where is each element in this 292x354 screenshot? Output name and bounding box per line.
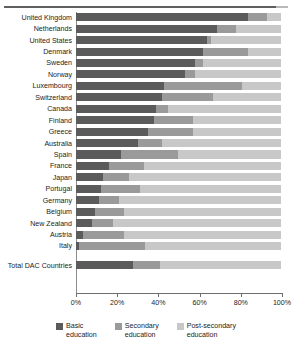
bar-segment-post-secondary-education — [248, 48, 281, 56]
country-label: Australia — [0, 140, 76, 148]
x-axis-tick-labels: 0%20%40%60%80%100% — [0, 299, 292, 311]
country-label: Netherlands — [0, 25, 76, 33]
chart-row: New Zealand — [0, 218, 292, 229]
bar-segment-post-secondary-education — [213, 93, 281, 101]
bar-segment-post-secondary-education — [145, 242, 281, 250]
country-label: Switzerland — [0, 94, 76, 102]
chart-row: Finland — [0, 115, 292, 126]
bar-segment-post-secondary-education — [168, 105, 281, 113]
stacked-bar — [76, 25, 281, 33]
bar-track — [76, 81, 292, 92]
stacked-bar — [76, 261, 281, 269]
bar-segment-basic-education — [76, 261, 133, 269]
x-axis-tick — [117, 293, 118, 297]
bar-segment-secondary-education — [164, 82, 242, 90]
bar-segment-post-secondary-education — [160, 261, 281, 269]
bar-segment-basic-education — [76, 93, 162, 101]
chart-row: Belgium — [0, 206, 292, 217]
top-divider-rule-tail — [276, 6, 288, 8]
bar-track — [76, 172, 292, 183]
stacked-bar — [76, 13, 281, 21]
chart-row: Luxembourg — [0, 81, 292, 92]
stacked-bar — [76, 128, 281, 136]
bar-segment-post-secondary-education — [119, 196, 281, 204]
bar-track — [76, 218, 292, 229]
chart-row: Canada — [0, 104, 292, 115]
bar-segment-secondary-education — [156, 105, 168, 113]
bar-segment-post-secondary-education — [124, 231, 281, 239]
bar-segment-post-secondary-education — [129, 173, 281, 181]
stacked-bar — [76, 242, 281, 250]
country-label: Belgium — [0, 208, 76, 216]
bar-segment-post-secondary-education — [124, 208, 281, 216]
chart-row: Sweden — [0, 58, 292, 69]
bar-segment-secondary-education — [121, 150, 178, 158]
bar-segment-basic-education — [76, 162, 109, 170]
bar-segment-basic-education — [76, 25, 217, 33]
country-label: Sweden — [0, 59, 76, 67]
legend-swatch-icon — [115, 323, 122, 330]
summary-label: Total DAC Countries — [0, 262, 76, 270]
bar-segment-post-secondary-education — [178, 150, 281, 158]
bar-segment-post-secondary-education — [162, 139, 281, 147]
chart-row: Denmark — [0, 46, 292, 57]
chart-row: Spain — [0, 149, 292, 160]
chart-row: Italy — [0, 241, 292, 252]
bar-segment-basic-education — [76, 185, 101, 193]
bar-segment-basic-education — [76, 105, 156, 113]
bar-segment-secondary-education — [79, 242, 145, 250]
bar-segment-basic-education — [76, 150, 121, 158]
bar-track — [76, 229, 292, 240]
bar-track — [76, 138, 292, 149]
bar-segment-basic-education — [76, 13, 248, 21]
bar-segment-secondary-education — [203, 48, 248, 56]
bar-segment-basic-education — [76, 173, 103, 181]
stacked-bar — [76, 231, 281, 239]
x-axis-line — [76, 293, 282, 294]
country-label: Japan — [0, 174, 76, 182]
country-label: Germany — [0, 197, 76, 205]
bar-segment-basic-education — [76, 139, 138, 147]
country-label: New Zealand — [0, 220, 76, 228]
stacked-bar — [76, 139, 281, 147]
chart-row: United Kingdom — [0, 12, 292, 23]
bar-segment-post-secondary-education — [195, 70, 281, 78]
row-spacer — [0, 252, 292, 260]
stacked-bar — [76, 208, 281, 216]
bar-segment-secondary-education — [103, 173, 130, 181]
bar-segment-post-secondary-education — [242, 82, 281, 90]
bar-segment-basic-education — [76, 128, 148, 136]
bar-segment-secondary-education — [101, 185, 140, 193]
stacked-bar — [76, 162, 281, 170]
x-axis-tick-label: 60% — [192, 299, 206, 307]
bar-segment-post-secondary-education — [236, 25, 281, 33]
chart-row: Netherlands — [0, 23, 292, 34]
country-label: Italy — [0, 242, 76, 250]
bar-track — [76, 115, 292, 126]
bar-segment-post-secondary-education — [193, 116, 281, 124]
country-label: Portugal — [0, 185, 76, 193]
bar-segment-post-secondary-education — [267, 13, 281, 21]
chart-row: United States — [0, 35, 292, 46]
country-label: Greece — [0, 128, 76, 136]
stacked-bar — [76, 173, 281, 181]
bar-track — [76, 23, 292, 34]
stacked-bar — [76, 82, 281, 90]
x-axis-tick-label: 40% — [151, 299, 165, 307]
stacked-bar — [76, 48, 281, 56]
x-axis-tick — [241, 293, 242, 297]
stacked-bar — [76, 219, 281, 227]
country-label: Austria — [0, 231, 76, 239]
bar-segment-secondary-education — [95, 208, 124, 216]
chart-row: Total DAC Countries — [0, 260, 292, 271]
bar-segment-secondary-education — [154, 116, 193, 124]
country-label: Canada — [0, 105, 76, 113]
bar-segment-secondary-education — [248, 13, 266, 21]
legend-swatch-icon — [177, 323, 184, 330]
stacked-bar-chart: United KingdomNetherlandsUnited StatesDe… — [0, 12, 292, 302]
bar-segment-secondary-education — [83, 231, 124, 239]
legend-item: Secondary education — [115, 322, 159, 339]
bar-segment-post-secondary-education — [113, 219, 281, 227]
bar-track — [76, 126, 292, 137]
stacked-bar — [76, 105, 281, 113]
